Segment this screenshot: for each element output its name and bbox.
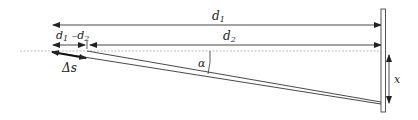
geometry-diagram: d1 d2 d1 –d2 Δs α x (0, 0, 418, 120)
label-delta-s: Δs (61, 61, 77, 75)
screen-plate (381, 9, 386, 112)
lower-ray (52, 52, 381, 104)
delta-s-arrow (52, 52, 86, 58)
label-d2: d2 (223, 29, 236, 44)
label-d1-minus-d2: d1 –d2 (56, 29, 89, 43)
label-x: x (394, 73, 401, 86)
label-alpha: α (198, 57, 206, 70)
label-d1: d1 (212, 9, 225, 24)
alpha-arc (208, 51, 210, 74)
upper-ray (87, 51, 381, 102)
